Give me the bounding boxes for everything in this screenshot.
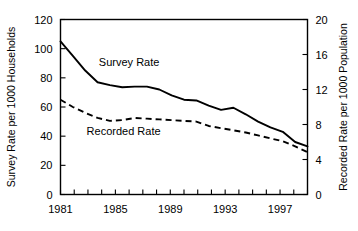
x-tick-label: 1989	[158, 203, 182, 215]
series-label-recorded-rate: Recorded Rate	[87, 125, 161, 137]
right-axis-tick-labels: 048121620	[316, 14, 328, 201]
right-tick-label: 8	[316, 119, 322, 131]
left-tick-label: 20	[40, 159, 52, 171]
left-tick-label: 0	[46, 189, 52, 201]
left-axis-title: Survey Rate per 1000 Households	[5, 27, 17, 188]
chart-container: 020406080100120 048121620 19811985198919…	[0, 0, 358, 231]
x-tick-label: 1981	[48, 203, 72, 215]
right-axis-ticks	[303, 20, 308, 195]
left-axis-tick-labels: 020406080100120	[34, 14, 52, 201]
x-tick-label: 1997	[268, 203, 292, 215]
plot-frame	[61, 20, 308, 195]
right-tick-label: 12	[316, 84, 328, 96]
x-axis-tick-labels: 19811985198919931997	[48, 203, 292, 215]
left-tick-label: 80	[40, 72, 52, 84]
right-tick-label: 16	[316, 49, 328, 61]
right-tick-label: 4	[316, 154, 322, 166]
series-label-survey-rate: Survey Rate	[99, 56, 160, 68]
right-axis-title: Recorded Rate per 1000 Population	[337, 23, 349, 191]
left-tick-label: 60	[40, 101, 52, 113]
left-tick-label: 120	[34, 14, 52, 26]
x-tick-label: 1985	[103, 203, 127, 215]
x-tick-label: 1993	[213, 203, 237, 215]
left-tick-label: 40	[40, 130, 52, 142]
left-tick-label: 100	[34, 43, 52, 55]
line-chart: 020406080100120 048121620 19811985198919…	[0, 0, 358, 231]
right-tick-label: 0	[316, 189, 322, 201]
x-axis-ticks	[61, 190, 308, 195]
right-tick-label: 20	[316, 14, 328, 26]
